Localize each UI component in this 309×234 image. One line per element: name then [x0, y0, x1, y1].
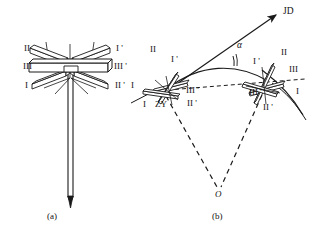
- converge-line-left: [166, 96, 217, 187]
- figure-canvas: [0, 0, 309, 234]
- converge-line-right: [221, 95, 262, 187]
- label-b-right-I-prime: I ': [253, 57, 260, 66]
- label-b-right-III: III: [289, 65, 298, 74]
- panel-a-group: [29, 42, 112, 208]
- caption-b: (b): [212, 212, 223, 221]
- label-a-I: I: [25, 81, 28, 90]
- angle-arc: [233, 56, 234, 66]
- label-a-I-prime: I ': [116, 44, 123, 53]
- label-b-right-I: I: [296, 87, 299, 96]
- label-a-III-prime: III ': [114, 62, 127, 71]
- label-b-right-II-prime: II ': [263, 103, 273, 112]
- label-b-left-III-prime: III ': [186, 86, 199, 95]
- label-zy: ZY: [155, 100, 167, 109]
- label-O: O: [215, 190, 222, 199]
- label-alpha: α: [237, 41, 242, 50]
- caption-a: (a): [47, 212, 57, 221]
- label-a-II: II: [24, 44, 30, 53]
- label-b-left-II-prime: II ': [187, 99, 197, 108]
- antenna-right: [242, 63, 285, 105]
- label-b-right-III-prime: III ': [249, 88, 262, 97]
- label-a-II-prime: II ': [115, 81, 125, 90]
- label-b-left-I-prime: I ': [171, 55, 178, 64]
- label-jd: JD: [283, 7, 294, 16]
- label-b-left-I: I: [131, 81, 134, 90]
- label-b-left-I-lower: I: [143, 100, 146, 109]
- mast: [67, 70, 74, 208]
- label-b-right-II: II: [281, 48, 287, 57]
- angle-arc-2: [236, 54, 237, 66]
- hub: [64, 66, 78, 72]
- label-a-III: III: [23, 62, 32, 71]
- label-b-left-II: II: [150, 45, 156, 54]
